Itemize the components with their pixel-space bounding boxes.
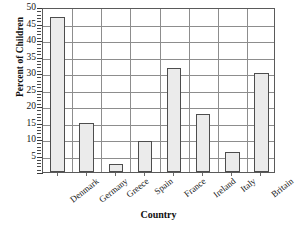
y-axis-minor-tick xyxy=(37,160,41,161)
x-axis-tick-label: Ireland xyxy=(212,176,238,200)
bar xyxy=(167,68,182,172)
y-axis-tick-label: 15 xyxy=(16,119,36,129)
x-axis-tick-label: France xyxy=(182,176,207,199)
y-axis-minor-tick xyxy=(37,11,41,12)
y-axis-tick-label: 30 xyxy=(16,69,36,79)
y-axis-minor-tick xyxy=(37,31,41,32)
y-axis-minor-tick xyxy=(37,170,41,171)
gridline-horizontal xyxy=(43,108,274,109)
y-axis-minor-tick xyxy=(37,18,41,19)
y-axis-minor-tick xyxy=(37,34,41,35)
bar xyxy=(254,73,269,172)
bar xyxy=(196,114,211,172)
plot-area xyxy=(42,8,275,173)
gridline-horizontal xyxy=(43,125,274,126)
gridline-vertical xyxy=(218,9,219,172)
gridline-horizontal xyxy=(43,75,274,76)
y-axis-minor-tick xyxy=(37,104,41,105)
y-axis-tick-label: 50 xyxy=(16,3,36,13)
x-axis-title: Country xyxy=(42,209,275,220)
gridline-vertical xyxy=(247,9,248,172)
gridline-horizontal xyxy=(43,26,274,27)
y-axis-minor-tick xyxy=(37,110,41,111)
y-axis-minor-tick xyxy=(37,81,41,82)
y-axis-minor-tick xyxy=(37,71,41,72)
y-axis-minor-tick xyxy=(37,143,41,144)
y-axis-minor-tick xyxy=(37,153,41,154)
y-axis-minor-tick xyxy=(37,97,41,98)
y-axis-minor-tick xyxy=(37,61,41,62)
y-axis-minor-tick xyxy=(37,166,41,167)
y-axis-tick-label: 5 xyxy=(16,152,36,162)
y-axis-minor-tick xyxy=(37,48,41,49)
bar xyxy=(50,17,65,172)
y-axis-minor-tick xyxy=(37,127,41,128)
y-axis-minor-tick xyxy=(37,84,41,85)
x-axis-tick-label: Denmark xyxy=(68,176,101,205)
bar xyxy=(79,123,94,173)
x-axis-tick-label: Italy xyxy=(239,176,258,194)
x-axis-tick-label: Spain xyxy=(152,176,174,197)
x-axis-tick-label: Greece xyxy=(124,176,150,200)
y-axis-tick-label: 25 xyxy=(16,86,36,96)
y-axis-minor-tick xyxy=(37,64,41,65)
y-axis-minor-tick xyxy=(37,130,41,131)
y-axis-minor-tick xyxy=(37,87,41,88)
y-axis-minor-tick xyxy=(37,137,41,138)
gridline-vertical xyxy=(130,9,131,172)
gridline-horizontal xyxy=(43,42,274,43)
bar-chart: Percent of Children 5045403530252015105 … xyxy=(0,0,295,229)
gridline-vertical xyxy=(160,9,161,172)
y-axis-minor-tick xyxy=(37,15,41,16)
gridline-vertical xyxy=(101,9,102,172)
gridline-vertical xyxy=(189,9,190,172)
y-axis-minor-tick xyxy=(37,67,41,68)
gridline-horizontal xyxy=(43,92,274,93)
y-axis-minor-tick xyxy=(37,114,41,115)
y-axis-minor-tick xyxy=(37,133,41,134)
y-axis-minor-tick xyxy=(37,120,41,121)
y-axis-tick-label: 10 xyxy=(16,135,36,145)
bar xyxy=(109,164,124,172)
y-axis-minor-tick xyxy=(37,117,41,118)
y-axis-minor-tick xyxy=(37,94,41,95)
y-axis-minor-tick xyxy=(37,28,41,29)
y-axis-tick-labels: 5045403530252015105 xyxy=(16,8,36,173)
y-axis-minor-tick xyxy=(37,150,41,151)
bar xyxy=(225,152,240,172)
gridline-horizontal xyxy=(43,59,274,60)
y-axis-minor-tick xyxy=(37,77,41,78)
y-axis-minor-tick xyxy=(37,38,41,39)
gridline-vertical xyxy=(72,9,73,172)
y-axis-minor-tick xyxy=(37,100,41,101)
x-axis-tick-labels: DenmarkGermanyGreeceSpainFranceIrelandIt… xyxy=(0,176,295,206)
y-axis-tick-label: 40 xyxy=(16,36,36,46)
y-axis-minor-tick xyxy=(37,54,41,55)
y-axis-minor-tick xyxy=(37,44,41,45)
y-axis-minor-tick xyxy=(37,163,41,164)
y-axis-tick-label: 20 xyxy=(16,102,36,112)
bar xyxy=(138,141,153,172)
y-axis-minor-tick xyxy=(37,51,41,52)
x-axis-tick-label: Britain xyxy=(270,176,295,199)
y-axis-minor-tick xyxy=(37,21,41,22)
y-axis-tick-label: 45 xyxy=(16,20,36,30)
y-axis-tick-label: 35 xyxy=(16,53,36,63)
y-axis-minor-tick xyxy=(37,147,41,148)
gridline-horizontal xyxy=(43,141,274,142)
